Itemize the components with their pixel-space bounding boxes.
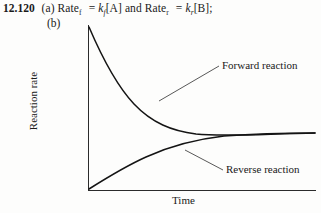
forward-label-leader-line (159, 66, 219, 101)
reaction-rate-chart: Reaction rate Time Forward reaction Reve… (0, 0, 321, 213)
reverse-label-leader-line (185, 150, 223, 170)
x-axis-label: Time (172, 194, 195, 206)
y-axis-label: Reaction rate (27, 46, 39, 156)
forward-reaction-label: Forward reaction (222, 59, 297, 71)
forward-reaction-curve (89, 27, 315, 135)
figure-page: 12.120 (a) Ratef = kf[A] and Rater = kr[… (0, 0, 321, 213)
reverse-reaction-curve (89, 133, 315, 189)
reverse-reaction-label: Reverse reaction (226, 163, 300, 175)
